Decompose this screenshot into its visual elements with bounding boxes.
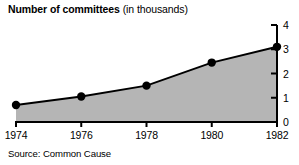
y-axis-tick-label: 3	[283, 43, 289, 55]
x-axis-tick-labels: 19741976197819801982	[5, 129, 289, 141]
chart-figure: Number of committees (in thousands) 1974…	[0, 0, 299, 165]
y-axis-tick-label: 1	[283, 92, 289, 104]
y-axis-tick-label: 0	[283, 116, 289, 128]
source-note: Source: Common Cause	[8, 148, 111, 159]
x-axis-tick-label: 1980	[200, 129, 223, 141]
data-point-marker	[142, 81, 150, 89]
data-point-marker	[273, 43, 281, 51]
data-point-marker	[12, 101, 20, 109]
data-point-marker	[77, 92, 85, 100]
area-chart-plot: 19741976197819801982 01234	[0, 0, 299, 165]
x-axis-tick-label: 1974	[5, 129, 28, 141]
y-axis-tick-labels: 01234	[283, 19, 289, 128]
x-axis-tick-label: 1982	[266, 129, 289, 141]
x-axis-tick-label: 1978	[135, 129, 158, 141]
data-point-marker	[208, 58, 216, 66]
x-axis-tick-label: 1976	[70, 129, 93, 141]
y-axis-tick-label: 2	[283, 68, 289, 80]
y-axis-tick-label: 4	[283, 19, 289, 31]
